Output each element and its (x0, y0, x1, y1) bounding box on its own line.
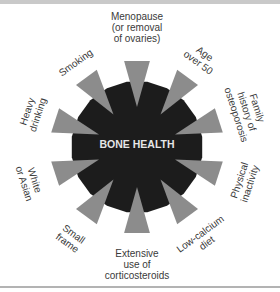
risk-factor-label-line: use of (123, 259, 150, 270)
risk-factor-label-line: (or removal (112, 22, 163, 33)
risk-factor-label: Ageover 50 (182, 39, 222, 77)
risk-factor-label: Smallframe (54, 222, 88, 255)
bone-health-diagram: BONE HEALTH Menopause(or removalof ovari… (0, 0, 280, 292)
risk-factor-label: Heavydrinking (17, 93, 49, 133)
risk-factor-label: Menopause(or removalof ovaries) (111, 11, 164, 44)
risk-factor-label: Smoking (57, 47, 95, 79)
center-title: BONE HEALTH (99, 138, 174, 150)
risk-factor-label-line: Extensive (115, 248, 159, 259)
risk-factor-label: Low-calciumdiet (174, 213, 232, 263)
risk-factor-label: Familyhistory ofosteoporosis (222, 79, 271, 143)
risk-factor-label: Whiteor Asian (13, 161, 45, 202)
risk-factor-label: Extensiveuse ofcorticosteroids (105, 248, 169, 281)
risk-factor-label-line: corticosteroids (105, 270, 169, 281)
risk-factor-label-line: Menopause (111, 11, 164, 22)
bottom-rule (0, 286, 280, 288)
risk-factor-label-line: Smoking (57, 47, 95, 79)
risk-factor-label: Physicalinactivity (228, 160, 261, 203)
risk-factor-label-line: of ovaries) (114, 33, 161, 44)
